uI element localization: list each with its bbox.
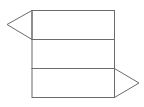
rectangular-faces (32, 11, 115, 98)
triangular-faces (7, 11, 139, 98)
prism-net-diagram (0, 0, 144, 107)
face-bottom (32, 69, 115, 98)
triangle-right (115, 69, 140, 98)
face-top (32, 11, 115, 40)
face-middle (32, 40, 115, 69)
triangle-left (7, 11, 32, 40)
